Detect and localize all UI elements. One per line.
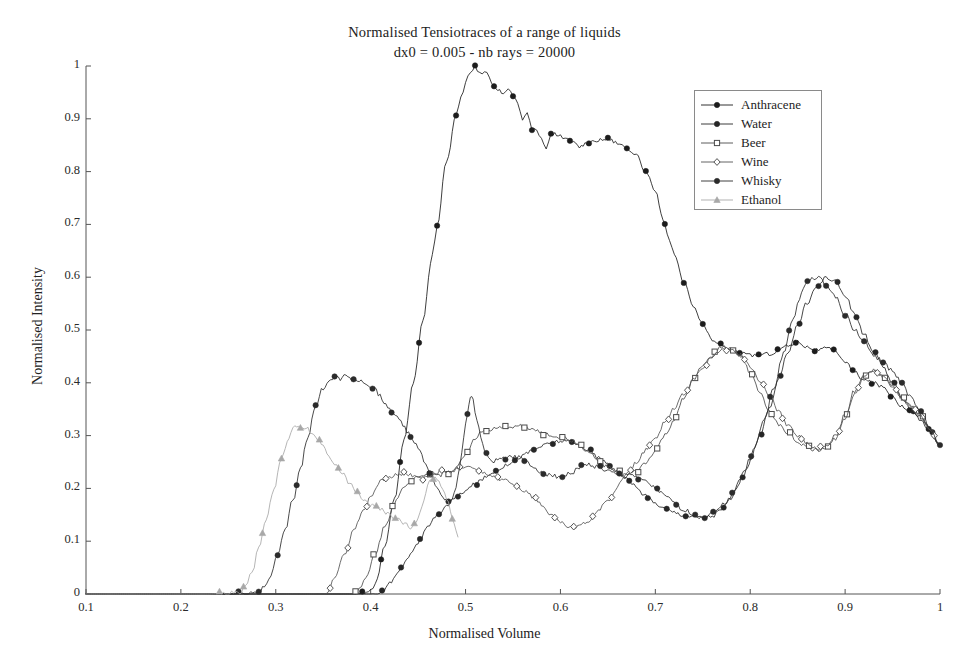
y-tick-label: 0.9 [40, 110, 80, 125]
data-point-marker [379, 588, 384, 593]
data-point-marker [662, 221, 667, 226]
data-point-marker [345, 545, 351, 552]
figure-canvas: Normalised Tensiotraces of a range of li… [0, 0, 969, 663]
data-point-marker [472, 63, 477, 68]
data-point-marker [392, 515, 398, 521]
data-point-marker [609, 494, 615, 501]
legend-marker-whisky [700, 175, 734, 187]
data-point-marker [449, 515, 455, 521]
legend-glyph [714, 121, 719, 126]
legend-item-wine[interactable]: Wine [695, 152, 821, 171]
data-point-marker [514, 483, 520, 490]
data-point-marker [702, 515, 707, 520]
data-point-marker [476, 468, 482, 475]
series-line [86, 276, 940, 594]
data-point-marker [729, 490, 734, 495]
series-line [86, 345, 940, 594]
y-tick-label: 0 [40, 585, 80, 600]
data-point-marker [775, 347, 780, 352]
x-tick-label: 0.2 [161, 600, 201, 615]
data-point-marker [835, 279, 840, 284]
series-wine [86, 347, 940, 594]
data-point-marker [692, 512, 697, 517]
series-beer [86, 345, 940, 594]
legend-item-beer[interactable]: Beer [695, 133, 821, 152]
data-point-marker [836, 428, 842, 435]
legend-item-anthracene[interactable]: Anthracene [695, 95, 821, 114]
data-point-marker [918, 408, 923, 413]
data-point-marker [510, 94, 515, 99]
data-point-marker [627, 478, 632, 483]
data-point-marker [552, 514, 558, 521]
data-point-marker [760, 381, 766, 388]
data-point-marker [655, 446, 660, 451]
x-tick-label: 0.6 [540, 600, 580, 615]
data-point-marker [869, 381, 874, 386]
data-point-marker [408, 434, 413, 439]
data-point-marker [389, 410, 394, 415]
data-point-marker [714, 158, 720, 165]
legend-item-water[interactable]: Water [695, 114, 821, 133]
x-tick-label: 0.7 [635, 600, 675, 615]
data-point-marker [681, 280, 686, 285]
data-point-marker [712, 349, 717, 354]
data-point-marker [560, 474, 565, 479]
data-point-marker [617, 471, 622, 476]
data-point-marker [416, 340, 421, 345]
legend-marker-ethanol [700, 194, 734, 206]
legend-item-whisky[interactable]: Whisky [695, 171, 821, 190]
data-point-marker [297, 425, 303, 431]
data-point-marker [259, 530, 265, 536]
data-point-marker [756, 352, 761, 357]
data-point-marker [434, 223, 439, 228]
data-point-marker [503, 457, 508, 462]
data-point-marker [439, 467, 445, 474]
series-water [86, 277, 940, 594]
data-point-marker [674, 502, 679, 507]
data-point-marker [655, 486, 660, 491]
legend-glyph [714, 102, 719, 107]
data-point-marker [816, 283, 821, 288]
data-point-marker [571, 523, 577, 530]
data-point-marker [937, 442, 942, 447]
data-point-marker [750, 372, 755, 377]
data-point-marker [503, 423, 508, 428]
data-point-marker [484, 450, 489, 455]
data-point-marker [567, 138, 572, 143]
data-point-marker [854, 314, 859, 319]
data-point-marker [888, 394, 893, 399]
data-point-marker [643, 168, 648, 173]
data-point-marker [624, 146, 629, 151]
data-point-marker [427, 471, 432, 476]
legend-marker-anthracene [700, 99, 734, 111]
data-point-marker [873, 350, 878, 355]
data-point-marker [453, 113, 458, 118]
data-point-marker [605, 135, 610, 140]
data-point-marker [664, 506, 669, 511]
x-tick-label: 0.4 [351, 600, 391, 615]
y-tick-label: 0.1 [40, 532, 80, 547]
data-point-marker [495, 474, 501, 481]
data-point-marker [541, 433, 546, 438]
data-point-marker [465, 411, 470, 416]
x-tick-label: 0.3 [256, 600, 296, 615]
data-point-marker [880, 360, 885, 365]
legend-item-ethanol[interactable]: Ethanol [695, 190, 821, 209]
data-point-marker [216, 588, 222, 594]
data-point-marker [370, 386, 375, 391]
y-tick-label: 0.5 [40, 321, 80, 336]
legend-label: Water [734, 116, 772, 132]
legend-glyph [714, 178, 719, 183]
series-line [86, 349, 940, 594]
legend-label: Beer [734, 135, 766, 151]
data-point-marker [275, 553, 280, 558]
data-point-marker [560, 435, 565, 440]
data-point-marker [598, 463, 603, 468]
legend-label: Ethanol [734, 192, 781, 208]
legend-label: Wine [734, 154, 769, 170]
series-line [86, 277, 940, 594]
y-tick-label: 0.8 [40, 163, 80, 178]
data-point-marker [474, 482, 479, 487]
legend-label: Whisky [734, 173, 781, 189]
x-tick-label: 0.1 [66, 600, 106, 615]
